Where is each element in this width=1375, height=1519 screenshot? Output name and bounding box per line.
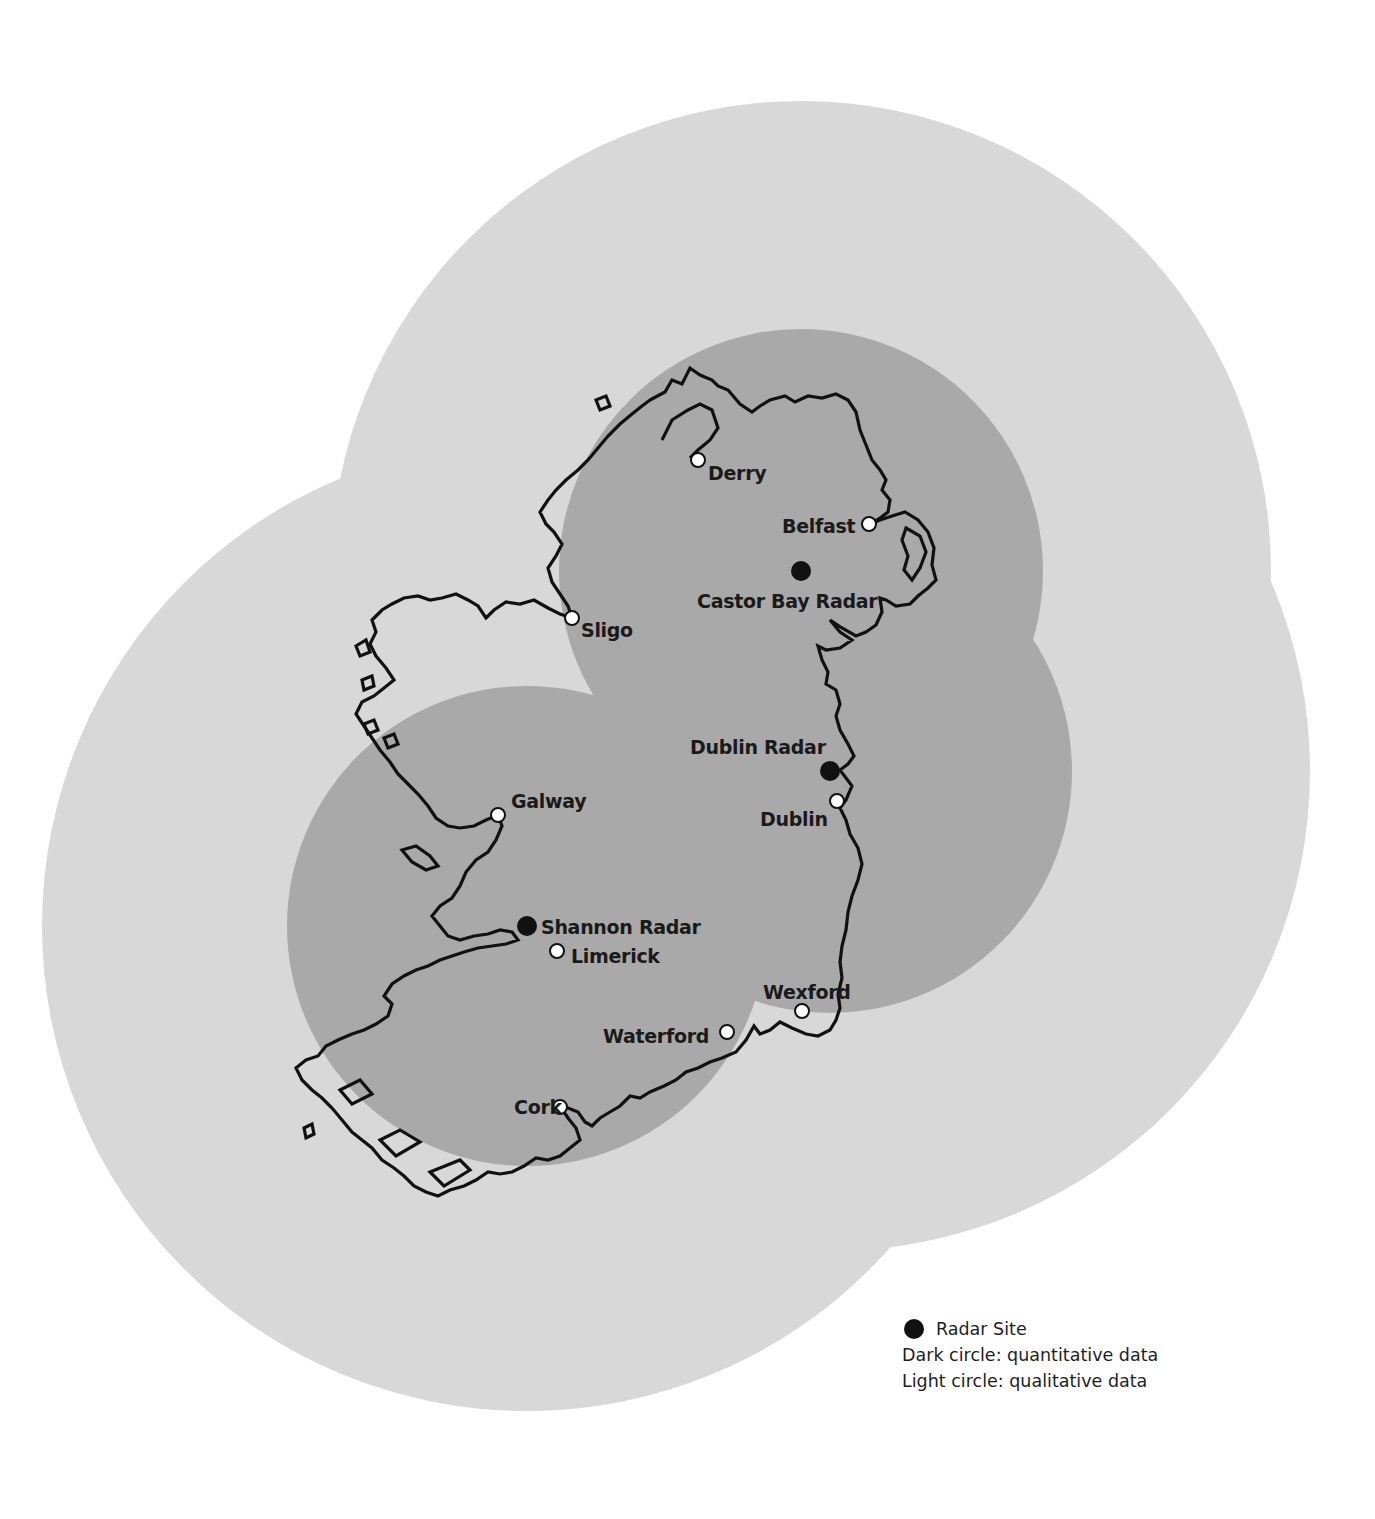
radar-site-dot-icon: [904, 1319, 924, 1339]
wexford-marker-icon[interactable]: [795, 1004, 809, 1018]
shannon-radar-site-icon[interactable]: [517, 916, 537, 936]
radar-label-shannon: Shannon Radar: [541, 916, 701, 938]
map-legend: Radar Site Dark circle: quantitative dat…: [902, 1316, 1158, 1394]
legend-light-circle: Light circle: qualitative data: [902, 1368, 1158, 1394]
city-label-derry: Derry: [708, 462, 766, 484]
waterford-marker-icon[interactable]: [720, 1025, 734, 1039]
city-label-galway: Galway: [511, 790, 586, 812]
dublin-marker-icon[interactable]: [830, 794, 844, 808]
legend-light-circle-label: Light circle: qualitative data: [902, 1368, 1147, 1394]
limerick-marker-icon[interactable]: [550, 944, 564, 958]
city-label-waterford: Waterford: [603, 1025, 709, 1047]
city-label-cork: Cork: [514, 1096, 562, 1118]
legend-dark-circle: Dark circle: quantitative data: [902, 1342, 1158, 1368]
legend-dark-circle-label: Dark circle: quantitative data: [902, 1342, 1158, 1368]
castor-bay-radar-site-icon[interactable]: [791, 561, 811, 581]
belfast-marker-icon[interactable]: [862, 517, 876, 531]
radar-label-castor-bay: Castor Bay Radar: [697, 590, 877, 612]
city-label-belfast: Belfast: [782, 515, 855, 537]
radar-label-dublin: Dublin Radar: [690, 736, 826, 758]
derry-marker-icon[interactable]: [691, 453, 705, 467]
legend-radar-site: Radar Site: [902, 1316, 1158, 1342]
dublin-radar-site-icon[interactable]: [820, 761, 840, 781]
city-label-limerick: Limerick: [571, 945, 660, 967]
radar-coverage-map: [0, 0, 1375, 1519]
sligo-marker-icon[interactable]: [565, 611, 579, 625]
city-label-dublin: Dublin: [760, 808, 828, 830]
city-label-wexford: Wexford: [763, 981, 851, 1003]
galway-marker-icon[interactable]: [491, 808, 505, 822]
city-label-sligo: Sligo: [581, 619, 633, 641]
legend-radar-site-label: Radar Site: [936, 1316, 1027, 1342]
